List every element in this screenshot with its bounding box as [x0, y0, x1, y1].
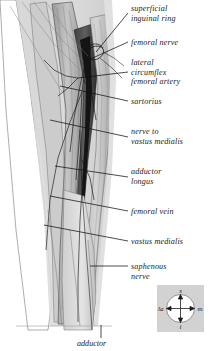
orientation-compass: s i la m [157, 285, 204, 332]
label-superficial-inguinal-ring: superficial inguinal ring [131, 4, 176, 23]
compass-superior-label: s [179, 287, 182, 295]
compass-medial-label: m [198, 305, 203, 313]
compass-inferior-label: i [180, 323, 182, 331]
label-nerve-to-vastus-medialis: nerve to vastus medialis [131, 127, 183, 146]
label-femoral-vein: femoral vein [131, 207, 174, 217]
label-adductor-longus: adductor longus [131, 167, 162, 186]
adductor-caption: adductor [77, 339, 106, 348]
femoral-triangle-illustration: s i la m [0, 0, 218, 351]
label-saphenous-nerve: saphenous nerve [131, 262, 167, 281]
label-sartorius: sartorius [131, 97, 162, 107]
compass-lateral-label: la [158, 305, 164, 313]
label-vastus-medialis: vastus medialis [131, 237, 183, 247]
label-femoral-nerve: femoral nerve [131, 38, 178, 48]
label-lateral-circumflex-femoral-artery: lateral circumflex femoral artery [131, 58, 180, 87]
illustration-body [0, 0, 124, 330]
